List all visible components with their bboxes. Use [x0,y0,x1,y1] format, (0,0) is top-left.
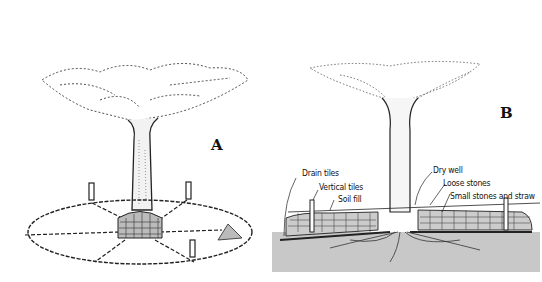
tree-well-perspective-illustration [0,0,270,282]
panel-a-tree-well-perspective: A [0,0,270,282]
label-loose-stones: Loose stones [443,178,490,188]
panel-label-b: B [500,104,513,122]
tree-well-cross-section-illustration [270,0,542,282]
panel-b-tree-well-cross-section: B Drain tiles Vertical tiles Soil fill D… [270,0,542,282]
label-small-stones-and-straw: Small stones and straw [450,191,535,201]
label-vertical-tiles: Vertical tiles [319,182,363,192]
label-dry-well: Dry well [433,165,463,175]
label-drain-tiles: Drain tiles [302,168,339,178]
panel-label-a: A [211,136,223,154]
label-soil-fill: Soil fill [338,194,361,204]
